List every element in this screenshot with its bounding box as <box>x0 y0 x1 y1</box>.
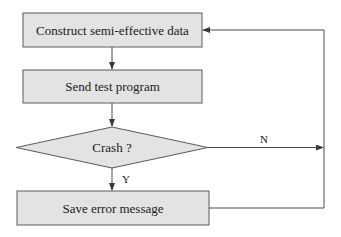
node-send-test-program: Send test program <box>23 70 202 103</box>
node-construct-data-label: Construct semi-effective data <box>36 23 189 38</box>
node-send-test-program-label: Send test program <box>65 79 160 94</box>
edge-label-yes: Y <box>122 173 130 185</box>
edge-save-loop-back <box>203 30 324 208</box>
flowchart-canvas: Construct semi-effective data Send test … <box>0 0 341 237</box>
node-crash-decision-label: Crash ? <box>92 140 132 155</box>
node-save-error-message-label: Save error message <box>62 201 163 216</box>
node-save-error-message: Save error message <box>17 191 209 225</box>
node-construct-data: Construct semi-effective data <box>23 13 202 47</box>
node-crash-decision: Crash ? <box>16 127 208 168</box>
edge-label-no: N <box>260 133 268 145</box>
